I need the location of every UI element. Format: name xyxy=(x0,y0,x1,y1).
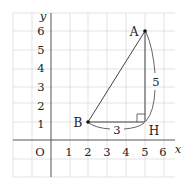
x-tick-labels: O 1 2 3 4 5 6 x xyxy=(35,142,181,159)
triangle xyxy=(88,31,145,122)
right-angle-mark xyxy=(137,114,145,122)
length-AH: 5 xyxy=(152,75,159,89)
svg-text:5: 5 xyxy=(141,145,148,159)
svg-text:1: 1 xyxy=(37,117,44,131)
segment-AB xyxy=(88,31,145,122)
length-BH: 3 xyxy=(113,123,120,137)
origin-label: O xyxy=(35,145,44,159)
svg-text:3: 3 xyxy=(103,145,110,159)
y-tick-labels: y 6 5 4 3 2 1 xyxy=(37,9,46,131)
coordinate-plane-figure: y 6 5 4 3 2 1 O 1 2 3 4 5 6 x xyxy=(0,0,193,190)
svg-text:2: 2 xyxy=(84,145,91,159)
svg-text:1: 1 xyxy=(65,145,72,159)
y-axis-label: y xyxy=(39,9,47,23)
svg-text:5: 5 xyxy=(37,43,44,57)
label-B: B xyxy=(74,116,83,130)
svg-text:3: 3 xyxy=(37,80,44,94)
x-axis-label: x xyxy=(175,142,182,156)
svg-text:6: 6 xyxy=(37,24,44,38)
svg-text:4: 4 xyxy=(37,61,44,75)
label-A: A xyxy=(129,25,139,39)
label-H: H xyxy=(149,124,159,138)
point-A xyxy=(143,29,147,33)
svg-text:6: 6 xyxy=(159,145,166,159)
svg-text:4: 4 xyxy=(122,145,129,159)
svg-text:2: 2 xyxy=(37,99,44,113)
point-B xyxy=(86,120,90,124)
